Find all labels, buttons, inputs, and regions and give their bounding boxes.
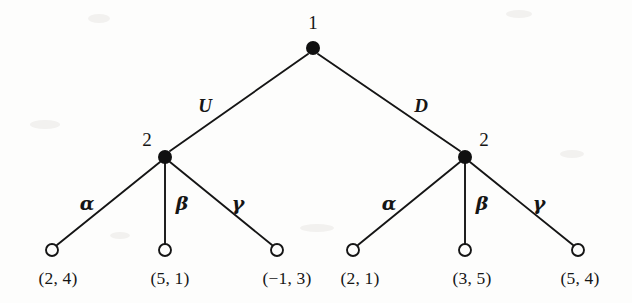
terminal-node-1 (46, 244, 58, 256)
edge-label-left-alpha: α (80, 194, 95, 213)
edge-right-to-terminal-4 (358, 162, 460, 245)
payoff-label-2: (5, 1) (150, 270, 189, 288)
edge-left-to-terminal-1 (57, 162, 160, 245)
terminal-node-6 (572, 244, 584, 256)
edge-label-right-gamma: γ (533, 194, 546, 213)
node-left-player2 (158, 150, 172, 164)
node-label-left-player2: 2 (142, 130, 152, 149)
payoff-label-1: (2, 4) (38, 270, 77, 288)
edge-root-to-left-U (170, 54, 308, 151)
terminal-node-3 (271, 244, 283, 256)
terminal-node-2 (159, 244, 171, 256)
tree-edges (57, 54, 573, 245)
edge-label-right-beta: β (476, 194, 489, 213)
edge-label-D: D (414, 96, 428, 115)
edge-label-U: U (198, 96, 212, 115)
game-tree-figure: 1 2 2 U D α β γ α β γ (2, 4) (5, 1) (−1,… (0, 0, 632, 303)
payoff-label-4: (2, 1) (340, 270, 379, 288)
terminal-nodes (46, 244, 584, 256)
node-label-root-player1: 1 (308, 13, 318, 32)
payoff-label-6: (5, 4) (560, 270, 599, 288)
node-right-player2 (458, 150, 472, 164)
edge-root-to-right-D (318, 54, 460, 151)
edge-label-right-alpha: α (382, 194, 397, 213)
edge-label-left-gamma: γ (232, 194, 245, 213)
payoff-label-3: (−1, 3) (262, 270, 311, 288)
terminal-node-5 (459, 244, 471, 256)
edge-label-left-beta: β (176, 194, 189, 213)
payoff-label-5: (3, 5) (452, 270, 491, 288)
node-label-right-player2: 2 (479, 130, 489, 149)
terminal-node-4 (347, 244, 359, 256)
node-root-player1 (306, 41, 320, 55)
